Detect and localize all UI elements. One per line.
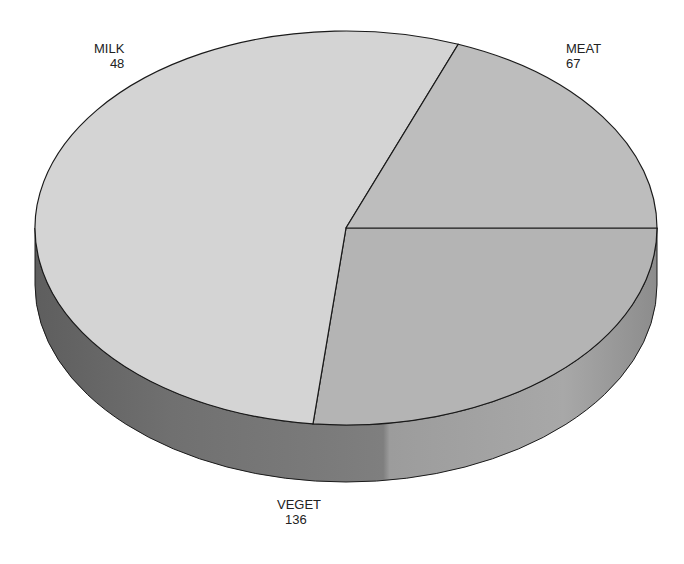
label-veget-value: 136 [277,512,321,527]
label-meat-name: MEAT [566,41,601,56]
label-milk: MILK 48 [94,41,124,71]
label-veget-name: VEGET [277,497,321,512]
pie-top-face [35,31,657,425]
pie-slice-meat [313,228,657,425]
label-veget: VEGET 136 [277,497,321,527]
label-milk-name: MILK [94,41,124,56]
pie-chart [0,0,684,564]
label-meat-value: 67 [566,56,601,71]
label-milk-value: 48 [94,56,124,71]
label-meat: MEAT 67 [566,41,601,71]
